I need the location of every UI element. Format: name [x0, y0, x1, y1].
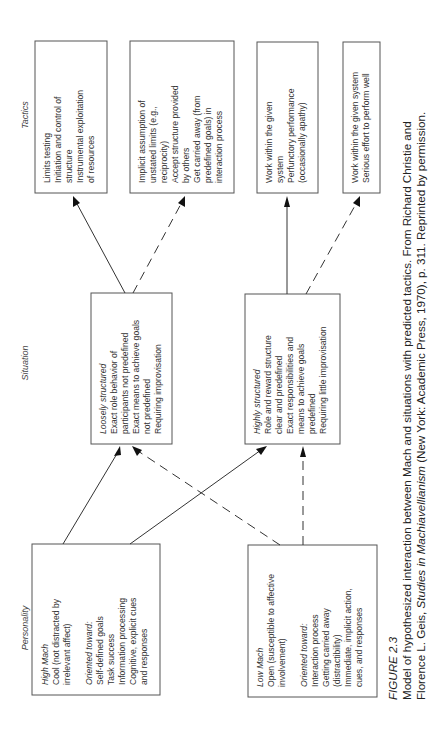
svg-text:Perfunctory performance: Perfunctory performance: [286, 88, 296, 183]
svg-text:and responses: and responses: [139, 629, 149, 685]
svg-text:Situation: Situation: [20, 345, 30, 380]
tactics-3-text: Work within the given system Perfunctory…: [264, 88, 307, 183]
svg-text:by others: by others: [181, 148, 191, 183]
tactics-4-text: Work within the given system Serious eff…: [350, 72, 371, 183]
svg-text:Role and reward structure: Role and reward structure: [263, 335, 273, 434]
svg-text:Implicit assumption of: Implicit assumption of: [137, 100, 147, 183]
label-tactics: Tactics: [20, 101, 30, 129]
figure-canvas: Tactics Situation Personality Limits tes…: [0, 0, 434, 732]
svg-text:(distractibility): (distractibility): [332, 634, 342, 687]
arrowhead-icon: [73, 196, 80, 207]
svg-text:not predefined: not predefined: [142, 379, 152, 434]
svg-text:Oriented toward:: Oriented toward:: [299, 623, 309, 687]
svg-text:interaction process: interaction process: [214, 111, 224, 183]
svg-text:Tactics: Tactics: [20, 101, 30, 129]
svg-text:Accept structure provided: Accept structure provided: [170, 85, 180, 183]
svg-text:Personality: Personality: [20, 605, 30, 650]
figure-caption: FIGURE 2.3 Model of hypothesized interac…: [386, 112, 427, 700]
svg-text:predefined goals) in: predefined goals) in: [203, 107, 213, 183]
arrow-lowmach-to-loosely: [138, 451, 280, 545]
svg-text:Cool (not distracted by: Cool (not distracted by: [51, 598, 61, 685]
svg-text:Getting carried away: Getting carried away: [321, 607, 331, 687]
svg-text:Oriented toward:: Oriented toward:: [84, 621, 94, 685]
arrowhead-icon: [353, 196, 360, 207]
svg-text:Highly structured: Highly structured: [252, 369, 262, 434]
arrowhead-icon: [178, 196, 185, 207]
svg-text:Work within the given system: Work within the given system: [350, 72, 360, 183]
svg-text:involvement): involvement): [277, 638, 287, 687]
arrowhead-icon: [256, 446, 267, 455]
arrowhead-icon: [284, 196, 290, 207]
svg-text:Exact responsibilities and: Exact responsibilities and: [285, 337, 295, 434]
caption-line-1: Model of hypothesized interaction betwee…: [400, 121, 413, 700]
arrowhead-icon: [300, 446, 306, 457]
label-situation: Situation: [20, 345, 30, 380]
arrow-highmach-to-loosely: [63, 452, 118, 544]
svg-text:Open (susceptible to affective: Open (susceptible to affective: [266, 574, 276, 687]
svg-text:clear and predefined: clear and predefined: [274, 355, 284, 434]
svg-text:Loosely structured: Loosely structured: [98, 364, 108, 434]
label-personality: Personality: [20, 605, 30, 650]
svg-text:of resources: of resources: [86, 136, 96, 183]
svg-text:Exact role behavior of: Exact role behavior of: [109, 350, 119, 434]
svg-text:Work within the given: Work within the given: [264, 101, 274, 183]
figure-number: FIGURE 2.3: [386, 636, 399, 700]
svg-text:Information processing: Information processing: [117, 598, 127, 685]
svg-text:reciprocity): reciprocity): [159, 141, 169, 183]
svg-text:Task success: Task success: [106, 634, 116, 685]
arrow-loosely-to-tactics2: [133, 202, 182, 293]
svg-text:Exact means to achieve goals: Exact means to achieve goals: [131, 320, 141, 434]
svg-text:Limits testing: Limits testing: [42, 133, 52, 183]
svg-text:Instrumental exploitation: Instrumental exploitation: [75, 90, 85, 183]
svg-text:Self-defined goals: Self-defined goals: [95, 616, 105, 685]
arrowhead-icon: [132, 446, 142, 456]
svg-text:Low Mach: Low Mach: [255, 648, 265, 687]
svg-text:participants not predefined: participants not predefined: [120, 332, 130, 434]
svg-text:Get carried away (from: Get carried away (from: [192, 96, 202, 183]
svg-text:irrelevant affect): irrelevant affect): [62, 623, 72, 685]
arrow-highly-to-tactics4: [306, 202, 357, 294]
svg-text:Requiring little improvisation: Requiring little improvisation: [318, 326, 328, 434]
arrow-highmach-to-highly: [130, 450, 261, 544]
svg-text:Interaction process: Interaction process: [310, 614, 320, 687]
svg-text:predefined: predefined: [307, 393, 317, 434]
svg-text:Initiation and control of: Initiation and control of: [53, 96, 63, 183]
svg-text:structure: structure: [64, 149, 74, 183]
svg-text:unstated limits (e.g.,: unstated limits (e.g.,: [148, 106, 158, 183]
svg-text:(occasionally apathy): (occasionally apathy): [297, 102, 307, 183]
arrow-loosely-to-tactics1: [76, 202, 125, 293]
svg-text:Requiring improvisation: Requiring improvisation: [153, 344, 163, 434]
svg-text:Serious effort to perform well: Serious effort to perform well: [361, 73, 371, 183]
arrowhead-icon: [114, 446, 121, 456]
svg-text:High Mach: High Mach: [40, 644, 50, 685]
svg-text:Cognitive, explicit cues: Cognitive, explicit cues: [128, 598, 138, 685]
caption-line-2: Florence L. Geis, Studies in Machiavelli…: [414, 112, 427, 700]
svg-text:Immediate, implicit action,: Immediate, implicit action,: [343, 588, 353, 687]
svg-text:system: system: [275, 156, 285, 183]
svg-text:cues, and responses: cues, and responses: [354, 608, 364, 687]
svg-text:means to achieve goals: means to achieve goals: [296, 344, 306, 434]
